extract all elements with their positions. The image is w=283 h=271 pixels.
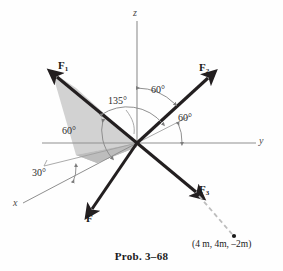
angle-label-z-f2: 60° (151, 85, 165, 95)
figure-canvas (0, 0, 283, 271)
physics-figure: F1 F2 F3 F 60° 60° 135° 60° 30° z y x (4… (0, 0, 283, 271)
vector-label-F1: F1 (58, 60, 68, 71)
point-marker (232, 234, 236, 238)
angle-label-ref-y: 60° (178, 113, 192, 123)
point-coordinates-label: (4 m, 4m, –2m) (192, 240, 251, 250)
axis-lines (23, 21, 256, 203)
vector-label-F3: F3 (199, 184, 209, 195)
axis-label-x: x (13, 198, 17, 208)
arc-ref-y (178, 123, 182, 143)
vector-label-F: F (86, 213, 93, 224)
axis-label-z: z (133, 8, 137, 18)
vector-F2 (137, 78, 208, 143)
angle-label-30: 30° (32, 168, 46, 178)
vector-label-F2: F2 (199, 62, 209, 73)
vector-F3 (137, 143, 196, 192)
figure-caption: Prob. 3–68 (0, 250, 283, 262)
angle-label-135: 135° (108, 96, 127, 106)
axis-label-y: y (259, 136, 263, 146)
arc-30 (73, 166, 76, 182)
leader-135 (126, 110, 134, 134)
dashed-extension-F3 (199, 196, 236, 238)
angle-label-60-triangle: 60° (62, 126, 76, 136)
